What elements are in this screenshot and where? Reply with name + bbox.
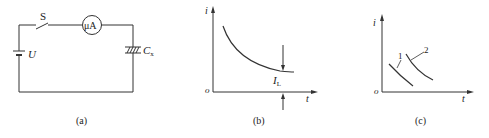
origin-label: o bbox=[374, 86, 379, 96]
arrow-right-icon bbox=[311, 90, 318, 94]
arrow-up-icon bbox=[281, 93, 285, 99]
origin-label: o bbox=[205, 85, 210, 95]
arrow-right-icon bbox=[467, 90, 474, 94]
x-axis-label: t bbox=[306, 93, 309, 104]
curve-label-1: 1 bbox=[398, 51, 403, 61]
y-axis-label: i bbox=[205, 5, 208, 16]
graph-b bbox=[211, 6, 318, 110]
arrow-up-icon bbox=[380, 14, 384, 21]
leader-line-2 bbox=[411, 52, 424, 60]
x-axis-label: t bbox=[462, 93, 465, 104]
caption-c: (c) bbox=[415, 115, 426, 127]
caption-a: (a) bbox=[76, 115, 87, 127]
switch-label: S bbox=[40, 10, 46, 22]
arrow-up-icon bbox=[211, 6, 215, 13]
capacitor-label: Cx bbox=[143, 44, 154, 58]
figure: S μA U Cx (a) i t o IL (b) i t o 1 2 (c) bbox=[0, 0, 489, 138]
marker-label: IL bbox=[272, 74, 281, 88]
source-label: U bbox=[28, 48, 37, 60]
caption-b: (b) bbox=[253, 115, 265, 127]
leader-line-1 bbox=[397, 60, 401, 68]
curve-2 bbox=[406, 54, 433, 80]
curve-label-2: 2 bbox=[424, 45, 429, 55]
switch-icon bbox=[36, 23, 48, 29]
curve-1 bbox=[389, 64, 413, 86]
arrow-down-icon bbox=[281, 65, 285, 71]
y-axis-label: i bbox=[373, 17, 376, 28]
meter-label: μA bbox=[84, 20, 97, 31]
